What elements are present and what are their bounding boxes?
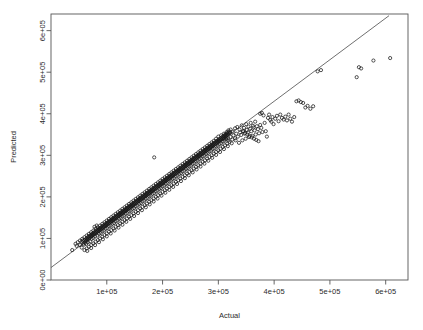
y-axis-tick-label: 2e+05 <box>38 186 47 207</box>
scatter-point <box>71 248 74 251</box>
scatter-point <box>242 126 245 129</box>
scatter-point <box>256 128 259 131</box>
x-axis-tick-label: 2e+05 <box>152 287 173 296</box>
scatter-point <box>264 130 267 133</box>
scatter-point <box>372 59 375 62</box>
x-axis-tick-label: 4e+05 <box>264 287 285 296</box>
x-axis-tick-label: 3e+05 <box>208 287 229 296</box>
scatter-point <box>237 141 240 144</box>
scatter-point <box>244 137 247 140</box>
data-layer <box>51 16 392 268</box>
scatter-point <box>389 56 392 59</box>
x-axis-tick-label: 5e+05 <box>319 287 340 296</box>
scatter-point <box>285 119 288 122</box>
y-axis-tick-label: 0e+00 <box>38 269 47 290</box>
scatter-point <box>260 126 263 129</box>
scatter-point <box>319 69 322 72</box>
x-axis-title: Actual <box>219 311 240 320</box>
scatter-point <box>268 113 271 116</box>
scatter-point <box>293 115 296 118</box>
scatter-point <box>249 121 252 124</box>
scatter-point <box>279 113 282 116</box>
scatter-point <box>284 115 287 118</box>
scatter-point <box>265 135 268 138</box>
x-axis-tick-label: 1e+05 <box>96 287 117 296</box>
scatter-point <box>306 104 309 107</box>
scatter-point <box>263 121 266 124</box>
y-axis-tick-label: 4e+05 <box>38 103 47 124</box>
scatter-point <box>253 129 256 132</box>
scatter-point <box>277 120 280 123</box>
y-axis-title: Predicted <box>9 131 18 163</box>
scatter-plot-figure: 1e+052e+053e+054e+055e+056e+050e+001e+05… <box>0 0 423 330</box>
scatter-point <box>236 135 239 138</box>
scatter-point <box>287 113 290 116</box>
scatter-point <box>80 246 83 249</box>
scatter-point <box>272 123 275 126</box>
scatter-point <box>312 105 315 108</box>
scatter-point <box>254 120 257 123</box>
scatter-point <box>254 133 257 136</box>
chart-canvas: 1e+052e+053e+054e+055e+056e+050e+001e+05… <box>0 0 423 330</box>
y-axis-tick-label: 3e+05 <box>38 145 47 166</box>
y-axis-tick-label: 6e+05 <box>38 20 47 41</box>
scatter-point <box>275 114 278 117</box>
scatter-point <box>290 120 293 123</box>
scatter-point <box>262 114 265 117</box>
x-axis-tick-label: 6e+05 <box>375 287 396 296</box>
scatter-point <box>241 139 244 142</box>
scatter-point <box>257 132 260 135</box>
scatter-point <box>153 156 156 159</box>
scatter-point <box>261 130 264 133</box>
y-axis-tick-label: 1e+05 <box>38 228 47 249</box>
scatter-point <box>316 70 319 73</box>
scatter-point <box>355 76 358 79</box>
y-axis-tick-label: 5e+05 <box>38 62 47 83</box>
scatter-point <box>309 107 312 110</box>
